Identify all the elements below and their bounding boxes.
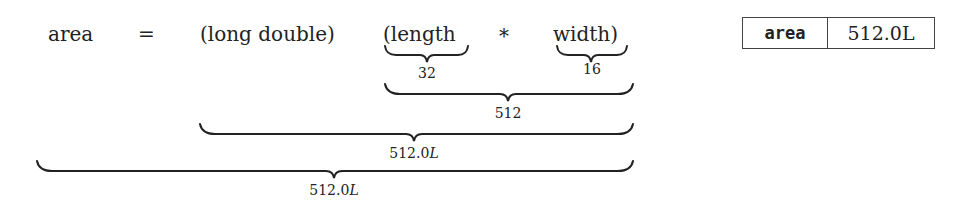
brace-length	[385, 46, 468, 62]
brace-product	[385, 84, 633, 101]
result-value-cell: 512.0L	[828, 18, 934, 48]
product-value-label: 512	[495, 106, 522, 120]
brace-assign	[37, 161, 633, 178]
result-variable-cell: area	[743, 18, 828, 48]
brace-cast	[200, 124, 633, 141]
length-term: (length	[383, 24, 456, 44]
lhs-variable: area	[48, 24, 93, 44]
width-value-label: 16	[583, 62, 601, 76]
assign-operator: =	[138, 24, 155, 44]
multiply-operator: *	[499, 26, 509, 46]
result-table: area 512.0L	[742, 17, 935, 49]
cast-expression: (long double)	[200, 24, 335, 44]
brace-width	[557, 46, 627, 62]
assign-value-label: 512.0L	[309, 183, 358, 197]
length-value-label: 32	[418, 66, 436, 80]
width-term: width)	[553, 24, 618, 44]
cast-value-label: 512.0L	[389, 146, 438, 160]
